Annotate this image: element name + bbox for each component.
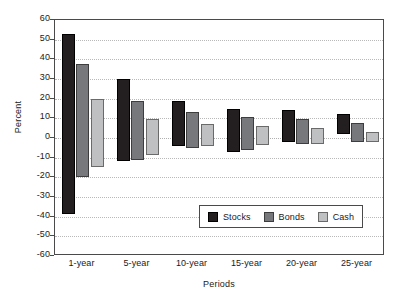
bar-bonds-1-year (76, 64, 89, 177)
legend-label: Cash (333, 212, 354, 222)
bar-stocks-15-year (227, 109, 240, 152)
bar-cash-10-year (201, 124, 214, 146)
bar-chart: Percent 6050403020100-10-20-30-40-50-60 … (0, 0, 406, 302)
y-tick-label: 60 (4, 13, 50, 23)
legend-label: Bonds (279, 212, 305, 222)
bar-bonds-10-year (186, 112, 199, 147)
y-tick-label: 30 (4, 72, 50, 82)
x-tick-label-10-year: 10-year (162, 258, 222, 268)
plot-area: StocksBondsCash (54, 19, 384, 255)
gridline--30 (55, 197, 383, 198)
bar-bonds-25-year (351, 123, 364, 142)
x-tick-label-15-year: 15-year (217, 258, 277, 268)
y-tick-label: 50 (4, 33, 50, 43)
x-tick-label-1-year: 1-year (52, 258, 112, 268)
gridline--10 (55, 158, 383, 159)
y-tick-label: -30 (4, 190, 50, 200)
gridline-50 (55, 40, 383, 41)
y-tick-label: 40 (4, 52, 50, 62)
bar-cash-15-year (256, 126, 269, 145)
bar-stocks-20-year (282, 110, 295, 141)
legend-item-bonds: Bonds (264, 212, 305, 222)
y-tick-label: -40 (4, 210, 50, 220)
legend-label: Stocks (223, 212, 251, 222)
bar-stocks-10-year (172, 101, 185, 146)
bar-stocks-25-year (337, 114, 350, 134)
bar-cash-1-year (91, 99, 104, 168)
gridline-40 (55, 59, 383, 60)
bar-bonds-20-year (296, 119, 309, 144)
y-tick-label: -10 (4, 151, 50, 161)
x-tick-label-20-year: 20-year (272, 258, 332, 268)
y-tick-label: -20 (4, 170, 50, 180)
y-tick-label: 20 (4, 92, 50, 102)
bar-bonds-5-year (131, 101, 144, 160)
gridline-10 (55, 118, 383, 119)
x-tick-label-5-year: 5-year (107, 258, 167, 268)
gridline-0 (55, 138, 383, 139)
x-axis-title: Periods (54, 279, 384, 289)
y-tick-label: 0 (4, 131, 50, 141)
y-tick-label: -60 (4, 249, 50, 259)
y-tick-label: 10 (4, 111, 50, 121)
gridline-20 (55, 99, 383, 100)
gridline-30 (55, 79, 383, 80)
gridline--20 (55, 177, 383, 178)
gridline--50 (55, 236, 383, 237)
y-tick-label: -50 (4, 229, 50, 239)
legend-item-cash: Cash (318, 212, 354, 222)
x-tick-label-25-year: 25-year (327, 258, 387, 268)
legend-swatch-icon (208, 212, 218, 222)
y-tick-mark (50, 255, 54, 256)
legend-swatch-icon (264, 212, 274, 222)
bar-cash-5-year (146, 119, 159, 154)
bar-cash-25-year (366, 132, 379, 142)
legend-swatch-icon (318, 212, 328, 222)
chart-legend: StocksBondsCash (199, 205, 363, 228)
bar-stocks-5-year (117, 79, 130, 161)
bar-bonds-15-year (241, 117, 254, 149)
legend-item-stocks: Stocks (208, 212, 251, 222)
bar-cash-20-year (311, 128, 324, 144)
bar-stocks-1-year (62, 34, 75, 214)
